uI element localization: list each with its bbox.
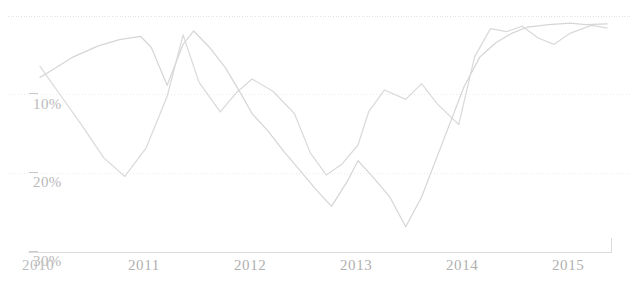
x-tick-label-2013: 2013 <box>340 258 372 273</box>
x-tick-label-2015: 2015 <box>552 258 584 273</box>
x-tick-label-2012: 2012 <box>234 258 266 273</box>
chart-container: 10% 20% 30% 2010 2011 2012 2013 2014 201… <box>0 0 639 303</box>
data-line-series-b <box>40 25 607 176</box>
gridlines <box>8 16 632 173</box>
x-tick-label-2014: 2014 <box>446 258 478 273</box>
chart-plot-area <box>0 0 639 303</box>
y-axis-ticks <box>29 94 38 251</box>
data-line-series-a <box>40 23 607 227</box>
y-tick-label-10: 10% <box>33 97 62 112</box>
data-series-group <box>40 23 607 227</box>
y-tick-label-20: 20% <box>33 175 62 190</box>
axis-lines <box>28 238 612 252</box>
x-tick-label-2011: 2011 <box>128 258 160 273</box>
x-tick-label-2010: 2010 <box>22 258 54 273</box>
